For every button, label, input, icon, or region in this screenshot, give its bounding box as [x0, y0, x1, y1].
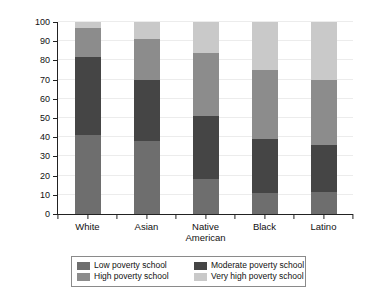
x-tick-mark-boundary [116, 214, 117, 219]
y-tick-label: 50 [24, 113, 50, 123]
x-axis-label: Asian [135, 221, 159, 232]
bar-group: Asian [117, 22, 176, 214]
bar-group: Latino [294, 22, 353, 214]
bar-segment[interactable] [134, 141, 160, 214]
x-tick-mark-boundary [293, 214, 294, 219]
x-tick-mark-boundary [57, 214, 58, 219]
bar-segment[interactable] [193, 22, 219, 53]
y-tick-label: 90 [24, 36, 50, 46]
x-tick-mark [323, 214, 324, 219]
x-tick-mark-boundary [352, 214, 353, 219]
legend-item-low-poverty: Low poverty school [77, 260, 194, 271]
bar-segment[interactable] [134, 22, 160, 39]
legend-item-high-poverty: High poverty school [77, 271, 194, 282]
y-tick-label: 30 [24, 151, 50, 161]
bar-segment[interactable] [193, 116, 219, 179]
bar-segment[interactable] [311, 80, 337, 145]
bar-group: Black [235, 22, 294, 214]
x-tick-mark [205, 214, 206, 219]
x-tick-mark [146, 214, 147, 219]
y-tick-label: 40 [24, 132, 50, 142]
legend-item-very-high-poverty: Very high poverty school [194, 271, 304, 282]
bar-segment[interactable] [252, 139, 278, 193]
stacked-bar[interactable] [311, 22, 337, 214]
bar-group: White [58, 22, 117, 214]
x-axis-label-line: Asian [135, 221, 159, 232]
bar-segment[interactable] [134, 39, 160, 79]
y-tick-label: 70 [24, 75, 50, 85]
legend-row: Low poverty school Moderate poverty scho… [77, 260, 300, 271]
y-tick-label: 20 [24, 171, 50, 181]
x-tick-mark [264, 214, 265, 219]
legend-item-label: Very high poverty school [211, 271, 304, 282]
x-axis-label-line: Latino [311, 221, 337, 232]
bar-segment[interactable] [134, 80, 160, 141]
x-tick-mark [87, 214, 88, 219]
legend-swatch-icon [194, 262, 207, 270]
legend-item-moderate-poverty: Moderate poverty school [194, 260, 304, 271]
bar-segment[interactable] [193, 53, 219, 116]
bar-segment[interactable] [311, 192, 337, 214]
x-axis-label: Black [253, 221, 276, 232]
stacked-bar[interactable] [134, 22, 160, 214]
x-axis-label: Latino [311, 221, 337, 232]
x-axis-label-line: American [185, 232, 225, 243]
bar-segment[interactable] [252, 70, 278, 139]
bar-segment[interactable] [311, 145, 337, 192]
stacked-bar[interactable] [75, 22, 101, 214]
x-tick-mark-boundary [234, 214, 235, 219]
y-tick-label: 60 [24, 94, 50, 104]
chart-legend: Low poverty school Moderate poverty scho… [71, 256, 306, 287]
plot-area: 0102030405060708090100WhiteAsianNativeAm… [57, 22, 353, 215]
x-axis-label: White [75, 221, 99, 232]
legend-swatch-icon [77, 262, 90, 270]
bar-group: NativeAmerican [176, 22, 235, 214]
y-tick-label: 0 [24, 209, 50, 219]
stacked-bar-chart: Percent of Students 01020304050607080901… [0, 0, 378, 300]
legend-item-label: Low poverty school [94, 260, 167, 271]
bar-segment[interactable] [193, 179, 219, 214]
x-axis-label: NativeAmerican [185, 221, 225, 243]
y-tick-label: 80 [24, 55, 50, 65]
legend-item-label: High poverty school [94, 271, 169, 282]
bar-segment[interactable] [311, 22, 337, 80]
bar-segment[interactable] [252, 193, 278, 214]
x-axis-label-line: Black [253, 221, 276, 232]
bar-segment[interactable] [75, 57, 101, 136]
x-tick-mark-boundary [175, 214, 176, 219]
legend-swatch-icon [194, 273, 207, 281]
stacked-bar[interactable] [193, 22, 219, 214]
x-axis-label-line: Native [185, 221, 225, 232]
bar-segment[interactable] [75, 28, 101, 57]
y-tick-label: 100 [24, 17, 50, 27]
legend-row: High poverty school Very high poverty sc… [77, 271, 300, 282]
y-tick-label: 10 [24, 190, 50, 200]
bar-segment[interactable] [252, 22, 278, 70]
bar-segment[interactable] [75, 135, 101, 214]
stacked-bar[interactable] [252, 22, 278, 214]
x-axis-label-line: White [75, 221, 99, 232]
bar-segment[interactable] [75, 22, 101, 28]
legend-item-label: Moderate poverty school [211, 260, 304, 271]
legend-swatch-icon [77, 273, 90, 281]
